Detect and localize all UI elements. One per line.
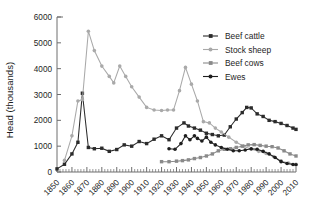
x-tick-label: 1970 [221,178,241,198]
data-point [178,89,182,93]
data-point [112,81,116,85]
data-point [200,139,204,143]
x-tick-label: 1860 [57,178,77,198]
y-tick-label: 3000 [34,91,53,100]
data-point [264,144,267,147]
data-point [196,137,200,141]
y-axis-label-group: Head (thousands) [4,62,15,138]
legend-item-beef-cows: Beef cows [203,58,264,68]
data-point [237,149,241,153]
y-tick-label: 4000 [34,65,53,74]
legend-marker [209,75,213,79]
data-point [205,135,209,139]
data-point [118,64,122,68]
data-point [291,126,294,129]
data-point [145,106,149,110]
data-point [267,119,270,122]
data-point [245,106,248,109]
data-point [234,140,238,144]
data-point [193,126,196,129]
data-point [214,126,218,130]
data-point [225,147,229,151]
x-tick-label: 1900 [117,178,137,198]
data-point [137,140,140,143]
data-point [166,108,170,112]
data-point [173,147,177,151]
data-point [267,152,271,156]
data-point [285,162,289,166]
x-tick-label: 1930 [162,178,182,198]
data-point [279,122,282,125]
data-point [187,124,190,127]
data-point [211,133,214,136]
data-point [294,163,298,167]
data-point [172,108,176,112]
chart-legend: Beef cattleStock sheepBeef cowsEwes [203,31,271,82]
data-point [63,163,66,166]
data-point [211,152,214,155]
data-point [255,147,259,151]
legend-item-stock-sheep: Stock sheep [203,45,271,55]
data-point [247,143,250,146]
data-point [55,167,58,170]
data-point [285,124,288,127]
data-point [182,121,185,124]
data-point [108,150,111,153]
y-tick-label: 2000 [34,116,53,125]
y-axis-label: Head (thousands) [4,62,15,138]
data-point [273,120,276,123]
x-tick-label: 1920 [147,178,167,198]
data-point [130,144,133,147]
data-point [279,160,283,164]
data-point [205,132,208,135]
data-point [217,149,220,152]
data-point [107,75,111,79]
y-tick-label: 0 [47,168,52,177]
x-tick-label: 1850 [42,178,62,198]
x-tick-label: 1870 [72,178,92,198]
data-point [273,156,277,160]
legend-label: Stock sheep [225,45,271,55]
y-tick-label: 1000 [34,142,53,151]
data-point [76,99,80,103]
data-point [152,108,156,112]
data-point [270,145,273,148]
series-beef-cattle [55,92,297,171]
data-point [188,138,192,142]
data-point [160,160,163,163]
data-point [258,144,261,147]
y-tick-label: 5000 [34,39,53,48]
data-point [175,126,178,129]
x-tick-label: 1960 [206,178,226,198]
data-point [243,148,247,152]
legend-label: Beef cattle [225,31,265,41]
data-point [217,134,220,137]
data-point [241,111,244,114]
x-tick-label: 1990 [251,178,271,198]
data-point [100,147,103,150]
data-point [190,82,194,86]
data-point [81,98,85,102]
legend-item-beef-cattle: Beef cattle [203,31,265,41]
chart-figure: Head (thousands) 01000200030004000500060… [0,0,314,216]
data-point [93,49,97,53]
data-point [130,85,134,89]
data-point [220,146,224,150]
data-point [231,149,235,153]
data-point [145,142,148,145]
data-point [184,66,188,70]
legend-marker [209,48,213,52]
data-point [249,147,253,151]
data-point [137,95,141,99]
data-point [241,144,244,147]
data-point [235,146,238,149]
data-point [87,29,91,33]
data-point [193,157,196,160]
x-tick-label: 2000 [266,178,286,198]
data-point [294,154,297,157]
data-point [93,147,96,150]
data-point [184,134,188,138]
data-point [220,130,224,134]
data-point [167,138,170,141]
x-tick-label: 1940 [177,178,197,198]
